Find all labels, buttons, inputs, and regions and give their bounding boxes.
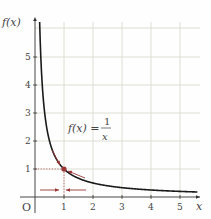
equation-numerator: 1 [104,116,110,127]
x-tick-label: 4 [148,202,154,212]
y-tick-label: 2 [25,136,31,146]
y-axis-arrow-icon [33,17,37,21]
arrow-axis-from-left-head-icon [55,188,59,192]
y-axis-label: f(x) [1,16,21,29]
axes [20,17,200,213]
guide-lines [35,169,64,197]
equation-denominator: x [102,131,108,142]
y-tick-label: 3 [25,108,31,118]
origin-label: O [22,201,31,214]
chart-reciprocal-function: 1234512345 f(x) x O f(x) = 1 x [0,0,211,219]
arrow-axis-from-right-head-icon [66,188,70,192]
y-tick-label: 5 [25,52,31,62]
x-axis-label: x [196,200,203,213]
grid-lines [35,22,200,197]
x-tick-label: 3 [119,202,125,212]
highlight-point [61,166,66,171]
x-axis-arrow-icon [196,195,200,199]
equation-label: f(x) = 1 x [67,116,111,142]
y-tick-label: 4 [25,80,31,90]
x-tick-label: 2 [90,202,96,212]
x-tick-label: 1 [61,202,67,212]
y-tick-label: 1 [25,164,31,174]
equation-lhs: f(x) = [67,122,100,135]
x-tick-label: 5 [177,202,183,212]
